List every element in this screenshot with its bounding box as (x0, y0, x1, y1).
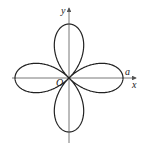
origin-label: O (56, 77, 63, 88)
x-axis-label: x (131, 79, 137, 90)
rose-curve-diagram: y O a x (0, 0, 147, 152)
y-axis-label: y (60, 5, 66, 16)
a-label: a (125, 66, 130, 77)
origin-dot (68, 77, 71, 80)
